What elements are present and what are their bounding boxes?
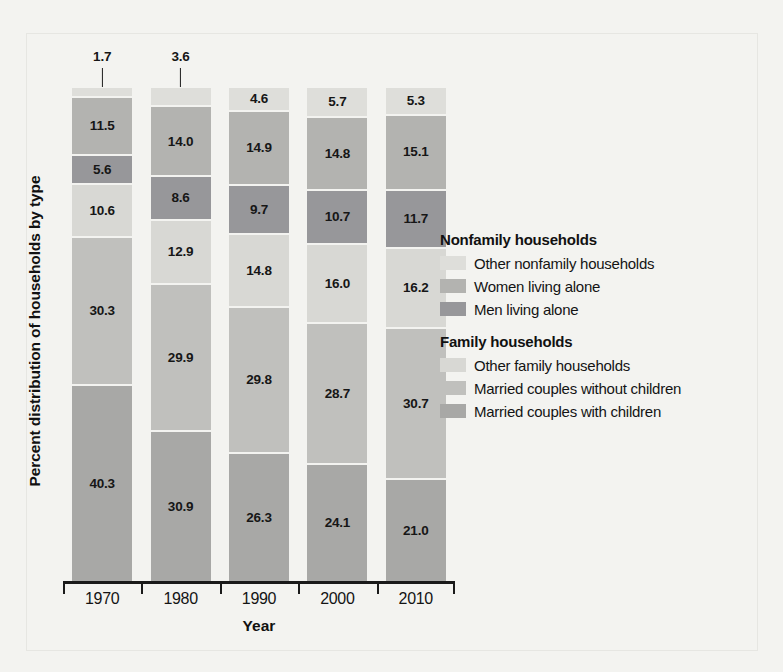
segment-value-label: 40.3: [89, 477, 114, 491]
segment-1980-4[interactable]: 29.9: [151, 285, 211, 432]
segment-value-label: 26.3: [246, 511, 271, 525]
legend-group-title: Family households: [440, 333, 760, 350]
x-axis-title: Year: [63, 617, 455, 635]
callout-leader-line: [101, 68, 103, 87]
legend-item-label: Married couples without children: [474, 380, 681, 397]
segment-2010-3[interactable]: 16.2: [386, 249, 446, 329]
bar-1980[interactable]: 3.63.614.08.612.929.930.9: [151, 88, 211, 581]
segment-1990-4[interactable]: 29.8: [229, 308, 289, 454]
segment-value-label: 30.9: [168, 500, 193, 514]
segment-value-label: 5.7: [328, 95, 346, 109]
segment-1980-1[interactable]: 14.0: [151, 107, 211, 177]
segment-value-label: 24.1: [325, 516, 350, 530]
segment-1980-2[interactable]: 8.6: [151, 177, 211, 221]
callout-1970: 1.7: [93, 50, 111, 87]
segment-2000-2[interactable]: 10.7: [307, 191, 367, 245]
segment-value-label: 14.8: [246, 264, 271, 278]
segment-value-label: 30.3: [89, 304, 114, 318]
segment-2000-5[interactable]: 24.1: [307, 465, 367, 581]
segment-1970-1[interactable]: 11.5: [72, 98, 132, 156]
segment-value-label: 8.6: [172, 191, 190, 205]
segment-value-label: 10.7: [325, 210, 350, 224]
segment-2010-5[interactable]: 21.0: [386, 480, 446, 581]
bar-1990[interactable]: 4.614.99.714.829.826.3: [229, 88, 289, 581]
segment-2000-0[interactable]: 5.7: [307, 88, 367, 118]
legend-swatch-icon: [440, 256, 466, 270]
segment-value-label: 10.6: [89, 204, 114, 218]
segment-1990-0[interactable]: 4.6: [229, 88, 289, 112]
segment-2000-1[interactable]: 14.8: [307, 118, 367, 191]
legend-item[interactable]: Married couples without children: [440, 377, 760, 399]
segment-value-label: 15.1: [403, 145, 428, 159]
callout-value-label: 1.7: [93, 50, 111, 65]
segment-value-label: 11.7: [403, 212, 428, 226]
x-axis-line: [63, 581, 455, 582]
x-tick-label-1990: 1990: [220, 590, 298, 608]
segment-value-label: 16.2: [403, 281, 428, 295]
segment-2000-3[interactable]: 16.0: [307, 245, 367, 324]
segment-1980-3[interactable]: 12.9: [151, 221, 211, 285]
legend-swatch-icon: [440, 279, 466, 293]
segment-value-label: 5.6: [93, 163, 111, 177]
callout-value-label: 3.6: [172, 50, 190, 65]
legend-group-title: Nonfamily households: [440, 231, 760, 248]
segment-value-label: 9.7: [250, 203, 268, 217]
x-axis-rule: [63, 581, 455, 584]
segment-value-label: 4.6: [250, 92, 268, 106]
legend-group-1: Family householdsOther family households…: [440, 333, 760, 422]
segment-2000-4[interactable]: 28.7: [307, 324, 367, 465]
segment-value-label: 30.7: [403, 397, 428, 411]
x-tick-label-2010: 2010: [377, 590, 455, 608]
y-axis-title: Percent distribution of households by ty…: [26, 116, 44, 546]
segment-1980-0[interactable]: 3.63.6: [151, 88, 211, 107]
legend-item[interactable]: Women living alone: [440, 275, 760, 297]
segment-value-label: 21.0: [403, 524, 428, 538]
stacked-bar-chart: Percent distribution of households by ty…: [0, 0, 783, 672]
segment-1990-1[interactable]: 14.9: [229, 112, 289, 186]
segment-1970-4[interactable]: 30.3: [72, 238, 132, 386]
segment-1970-5[interactable]: 40.3: [72, 386, 132, 581]
legend-item[interactable]: Men living alone: [440, 298, 760, 320]
segment-1990-3[interactable]: 14.8: [229, 235, 289, 308]
segment-2010-0[interactable]: 5.3: [386, 88, 446, 116]
segment-1970-2[interactable]: 5.6: [72, 156, 132, 185]
segment-value-label: 29.8: [246, 373, 271, 387]
x-tick-label-1980: 1980: [141, 590, 219, 608]
segment-1970-3[interactable]: 10.6: [72, 185, 132, 238]
segment-value-label: 29.9: [168, 351, 193, 365]
segment-2010-4[interactable]: 30.7: [386, 329, 446, 479]
segment-value-label: 5.3: [407, 94, 425, 108]
segment-value-label: 16.0: [325, 277, 350, 291]
segment-1990-5[interactable]: 26.3: [229, 454, 289, 581]
legend-item-label: Other family households: [474, 357, 630, 374]
segment-value-label: 11.5: [90, 119, 115, 133]
bar-1970[interactable]: 1.71.711.55.610.630.340.3: [72, 88, 132, 581]
bar-2010[interactable]: 5.315.111.716.230.721.0: [386, 88, 446, 581]
segment-1980-5[interactable]: 30.9: [151, 432, 211, 581]
legend-item-label: Married couples with children: [474, 403, 661, 420]
bar-2000[interactable]: 5.714.810.716.028.724.1: [307, 88, 367, 581]
x-tick-label-2000: 2000: [298, 590, 376, 608]
segment-value-label: 14.0: [168, 135, 193, 149]
segment-1990-2[interactable]: 9.7: [229, 186, 289, 235]
segment-2010-1[interactable]: 15.1: [386, 116, 446, 191]
legend-item[interactable]: Married couples with children: [440, 400, 760, 422]
segment-value-label: 14.8: [325, 147, 350, 161]
legend-group-0: Nonfamily householdsOther nonfamily hous…: [440, 231, 760, 320]
segment-value-label: 28.7: [325, 387, 350, 401]
callout-leader-line: [180, 68, 182, 87]
segment-value-label: 14.9: [246, 141, 271, 155]
legend-swatch-icon: [440, 302, 466, 316]
legend-swatch-icon: [440, 381, 466, 395]
callout-1980: 3.6: [172, 50, 190, 87]
legend-item-label: Men living alone: [474, 301, 578, 318]
legend-swatch-icon: [440, 404, 466, 418]
chart-legend: Nonfamily householdsOther nonfamily hous…: [440, 231, 760, 435]
plot-area: 1.71.711.55.610.630.340.33.63.614.08.612…: [63, 88, 455, 581]
legend-item[interactable]: Other family households: [440, 354, 760, 376]
segment-value-label: 12.9: [168, 245, 193, 259]
x-tick-label-1970: 1970: [63, 590, 141, 608]
legend-item[interactable]: Other nonfamily households: [440, 252, 760, 274]
segment-1970-0[interactable]: 1.71.7: [72, 88, 132, 98]
segment-2010-2[interactable]: 11.7: [386, 191, 446, 250]
